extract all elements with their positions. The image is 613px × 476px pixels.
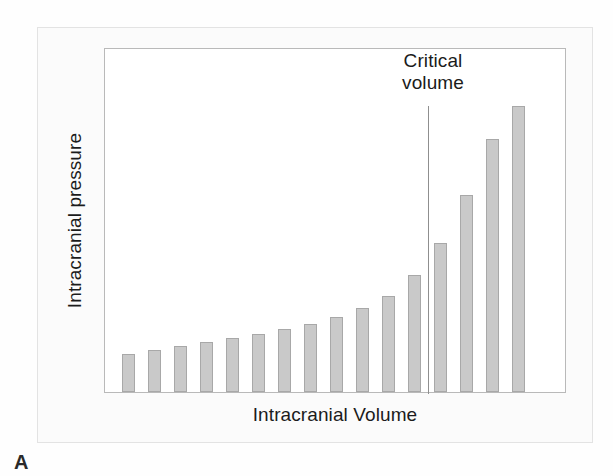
critical-volume-label-line1: Critical — [372, 50, 494, 72]
bar — [434, 243, 447, 392]
figure-panel-letter: A — [14, 452, 28, 472]
bar — [174, 346, 187, 392]
plot-surface — [105, 49, 565, 392]
bar — [512, 106, 525, 392]
bar — [226, 338, 239, 392]
bar — [486, 139, 499, 392]
critical-volume-annotation: Critical volume — [372, 50, 494, 94]
bar — [356, 308, 369, 392]
y-axis-title: Intracranial pressure — [62, 48, 88, 393]
bar — [148, 350, 161, 392]
bar — [122, 354, 135, 392]
bar — [252, 334, 265, 392]
bar — [382, 296, 395, 392]
figure-root: Critical volume Intracranial pressure In… — [0, 0, 613, 476]
plot-frame — [104, 48, 566, 393]
bar — [200, 342, 213, 392]
bar — [408, 275, 421, 392]
critical-volume-marker-line — [428, 106, 429, 394]
x-axis-title: Intracranial Volume — [104, 404, 566, 426]
bar — [330, 317, 343, 392]
critical-volume-label-line2: volume — [372, 72, 494, 94]
bar — [460, 195, 473, 392]
bar — [278, 329, 291, 392]
bar — [304, 324, 317, 392]
